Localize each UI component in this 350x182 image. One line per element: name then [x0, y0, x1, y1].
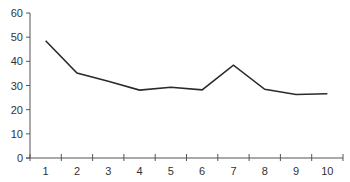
x-tick-label: 4 — [136, 165, 142, 177]
x-tick-label: 2 — [74, 165, 80, 177]
y-tick-label: 0 — [17, 152, 23, 164]
x-tick-label: 3 — [105, 165, 111, 177]
y-tick-label: 30 — [11, 80, 23, 92]
line-chart: 0102030405060 12345678910 — [0, 0, 350, 182]
y-tick-label: 40 — [11, 55, 23, 67]
y-tick-label: 10 — [11, 128, 23, 140]
x-tick-label: 7 — [230, 165, 236, 177]
series-line — [46, 41, 328, 95]
x-tick-label: 8 — [262, 165, 268, 177]
x-tick-label: 10 — [321, 165, 333, 177]
y-tick-label: 20 — [11, 104, 23, 116]
x-tick-label: 9 — [293, 165, 299, 177]
y-tick-label: 60 — [11, 7, 23, 19]
y-tick-label: 50 — [11, 31, 23, 43]
x-axis: 12345678910 — [26, 154, 343, 177]
x-tick-label: 6 — [199, 165, 205, 177]
y-axis: 0102030405060 — [11, 7, 30, 164]
x-tick-label: 1 — [43, 165, 49, 177]
x-tick-label: 5 — [168, 165, 174, 177]
series-group — [46, 41, 328, 95]
